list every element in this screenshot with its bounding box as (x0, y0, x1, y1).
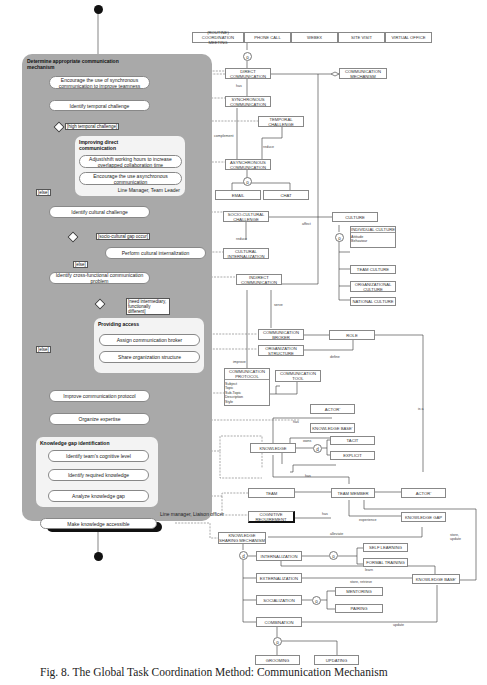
class-tacit[interactable]: TACIT (330, 436, 375, 445)
start-node (94, 5, 103, 14)
class-updating[interactable]: UPDATING (314, 655, 359, 665)
action-adjust-hours[interactable]: Adjust/shift working hours to increase o… (79, 155, 182, 168)
action-analyze-gap[interactable]: Analyze knowledge gap (48, 490, 149, 502)
action-identify-cross-functional[interactable]: Identify cross-functional communication … (49, 272, 150, 284)
class-direct-communication[interactable]: DIRECT COMMUNICATION (225, 68, 271, 79)
class-combination[interactable]: COMBINATION (256, 617, 302, 627)
overlap-o-3: o (273, 637, 282, 646)
action-organize-expertise[interactable]: Organize expertise (49, 413, 150, 425)
label-has: has (236, 84, 242, 88)
overlap-o: o (329, 551, 338, 560)
label-has-team: has (305, 474, 311, 478)
panel-role: Line manager, Liaison officer (160, 511, 224, 517)
label-affect: affect (302, 222, 311, 226)
group-title: Knowledge gap identification (40, 440, 109, 446)
label-learn: learn (365, 568, 373, 572)
label-alleviate: alleviate (330, 532, 343, 536)
class-indirect-communication[interactable]: INDIRECT COMMUNICATION (236, 274, 282, 285)
class-cognitive-requirement[interactable]: COGNITIVE REQUIREMENT (248, 511, 295, 523)
class-phone-call[interactable]: PHONE CALL (244, 32, 291, 43)
action-assign-broker[interactable]: Assign communication broker (99, 334, 200, 346)
class-synchronous-communication[interactable]: SYNCHRONOUS COMMUNICATION (225, 96, 271, 107)
class-knowledge-base-2[interactable]: KNOWLEDGE BASE' (412, 574, 460, 584)
class-site-visit[interactable]: SITE VISIT (338, 32, 385, 43)
class-team[interactable]: TEAM (248, 488, 295, 498)
class-virtual-office[interactable]: VIRTUAL OFFICE (385, 32, 432, 43)
label-experience: experience (359, 518, 377, 522)
class-pairing[interactable]: PAIRING (335, 604, 383, 613)
guard-intermediary: [need intermediary, functionally differe… (126, 298, 170, 315)
class-socialization[interactable]: SOCIALIZATION (256, 595, 302, 605)
class-individual-culture[interactable]: INDIVIDUAL CULTURE Attitude Behaviour (350, 226, 396, 248)
class-knowledge-gap[interactable]: KNOWLEDGE GAP (401, 512, 446, 522)
class-communication-mechanism[interactable]: COMMUNICATION MECHANISM (339, 68, 387, 79)
group-title: Providing access (98, 321, 139, 327)
guard-else-1: [else] (36, 189, 51, 196)
action-encourage-synchronous[interactable]: Encourage the use of synchronous communi… (49, 76, 150, 89)
generalization-o: o (243, 52, 252, 61)
group-title: Improving direct communication (79, 139, 139, 151)
label-owns: owns (303, 439, 311, 443)
label-define: define (330, 355, 340, 359)
panel-title: Determine appropriate communication mech… (27, 58, 147, 70)
class-organizational-culture[interactable]: ORGANIZATIONAL CULTURE (350, 281, 396, 292)
class-internalization[interactable]: INTERNALIZATION (256, 551, 302, 561)
action-identify-cognitive[interactable]: Identify team's cognitive level (48, 450, 149, 462)
class-grooming[interactable]: GROOMING (255, 655, 300, 665)
class-externalization[interactable]: EXTERNALIZATION (256, 573, 302, 583)
class-webex[interactable]: WEBEX (291, 32, 338, 43)
class-national-culture[interactable]: NATIONAL CULTURE (350, 297, 396, 306)
class-temporal-challenge[interactable]: TEMPORAL CHALLENGE (258, 116, 304, 127)
class-socio-cultural-challenge[interactable]: SOCIO-CULTURAL CHALLENGE (223, 211, 269, 222)
class-communication-tool[interactable]: COMMUNICATION TOOL (275, 370, 321, 382)
generalization-o-3: o (335, 233, 344, 242)
class-asynchronous-communication[interactable]: ASYNCHRONOUS COMMUNICATION (225, 159, 271, 170)
class-actor-2[interactable]: ACTOR' (401, 488, 446, 498)
label-update: update (393, 623, 404, 627)
class-organization-structure[interactable]: ORGANIZATION STRUCTURE (258, 345, 304, 356)
class-knowledge-sharing-mechanism[interactable]: KNOWLEDGE SHARING MECHANISM (218, 532, 266, 544)
class-mentoring[interactable]: MENTORING (335, 587, 383, 596)
action-encourage-async[interactable]: Encourage the use asynchronous communica… (79, 172, 182, 185)
label-is-a: is a (418, 407, 424, 411)
overlap-o-2: o (312, 596, 321, 605)
action-share-org-structure[interactable]: Share organization structure (99, 351, 200, 363)
class-formal-training[interactable]: FORMAL TRAINING (363, 558, 408, 567)
class-communication-protocol[interactable]: COMMUNICATION PROTOCOL Subject Topic Sub… (224, 368, 270, 406)
class-actor-1[interactable]: ACTOR' (310, 404, 355, 414)
figure-caption: Fig. 8. The Global Task Coordination Met… (40, 666, 388, 678)
label-serve: serve (274, 303, 283, 307)
class-team-member[interactable]: TEAM MEMBER (331, 488, 375, 498)
label-complement: complement (214, 134, 234, 138)
action-identify-cultural[interactable]: Identify cultural challenge (49, 206, 150, 218)
group-role: Line Manager, Team Leader (118, 187, 180, 193)
label-reduce-2: reduce (236, 237, 247, 241)
action-cultural-internalization[interactable]: Perform cultural internalization (105, 247, 206, 259)
action-identify-temporal[interactable]: Identify temporal challenge (49, 100, 150, 111)
label-store-update: store, update (450, 533, 466, 541)
class-email[interactable]: EMAIL (215, 190, 261, 200)
action-improve-protocol[interactable]: Improve communication protocol (49, 390, 150, 402)
class-culture[interactable]: CULTURE (332, 212, 378, 222)
class-chat[interactable]: CHAT (263, 190, 309, 200)
label-has-actor: has (293, 420, 299, 424)
class-explicit[interactable]: EXPLICIT (330, 451, 375, 460)
action-make-knowledge-accessible[interactable]: Make knowledge accessible (40, 518, 157, 529)
guard-else-2: [else] (73, 261, 88, 268)
class-routine-meeting[interactable]: (ROUTINE) COORDINATION MEETING (192, 32, 244, 43)
class-communication-broker[interactable]: COMMUNICATION BROKER (258, 329, 304, 340)
class-self-learning[interactable]: SELF LEARNING (363, 543, 408, 552)
class-role[interactable]: ROLE (329, 330, 375, 340)
end-node (94, 552, 103, 561)
class-attributes: Subject Topic Sub-Topic Description Styl… (223, 380, 271, 406)
label-store-retrieve: store, retrieve (350, 580, 372, 584)
guard-cultural: [socio-cultural gap occur] (96, 233, 150, 240)
class-knowledge-base-1[interactable]: KNOWLEDGE BASE' (310, 423, 355, 433)
class-name: COMMUNICATION PROTOCOL (225, 369, 269, 380)
action-identify-required-knowledge[interactable]: Identify required knowledge (48, 469, 149, 481)
class-knowledge[interactable]: KNOWLEDGE (250, 443, 296, 453)
label-has-req: has (322, 512, 328, 516)
label-reduce: reduce (263, 145, 274, 149)
class-cultural-internalization[interactable]: CULTURAL INTERNALIZATION (223, 248, 269, 259)
class-team-culture[interactable]: TEAM CULTURE (350, 265, 396, 274)
